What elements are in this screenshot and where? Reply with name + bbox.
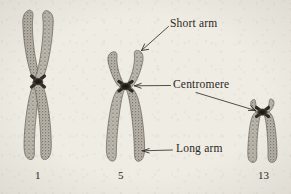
centromere-leader-chr5 (135, 83, 171, 88)
chromosome-13-centromere (257, 108, 269, 117)
figure-canvas: Short arm Centromere Long arm 1 5 13 (0, 0, 291, 194)
chromosome-1 (23, 10, 53, 160)
chromosome-5-right-long-arm (125, 87, 145, 161)
chromosome-13-left-long-arm (248, 112, 262, 162)
chromosome-5 (106, 50, 144, 161)
chromosome-5-left-short-arm (108, 52, 126, 87)
centromere-label: Centromere (173, 79, 229, 91)
short-arm-label: Short arm (170, 18, 217, 30)
chromosome-5-right-short-arm (125, 50, 143, 87)
long-arm-leader (143, 149, 173, 153)
chromosome-number-1: 1 (35, 170, 41, 181)
chromosome-number-5: 5 (118, 170, 124, 181)
chromosome-13 (248, 99, 277, 162)
chromosome-13-right-long-arm (263, 112, 277, 162)
chromosome-5-left-long-arm (106, 87, 126, 161)
chromosome-illustration (0, 0, 291, 194)
chromosome-5-centromere (119, 82, 132, 92)
long-arm-label: Long arm (176, 143, 223, 155)
centromere-leader-chr13 (196, 93, 256, 111)
short-arm-leader (142, 27, 169, 51)
chromosome-number-13: 13 (258, 170, 269, 181)
